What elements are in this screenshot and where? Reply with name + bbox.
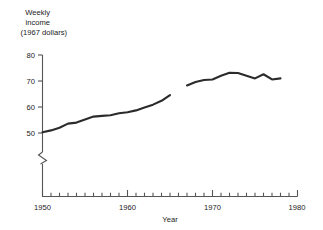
y-axis-title-line-2: income — [26, 18, 50, 27]
y-axis-break-icon — [39, 152, 47, 164]
y-axis-ticks — [38, 55, 43, 133]
x-tick-label-1950: 1950 — [34, 203, 51, 212]
x-axis-ticks — [43, 190, 298, 197]
x-tick-label-1970: 1970 — [204, 203, 221, 212]
chart-figure: Weekly income (1967 dollars) 80 70 60 50… — [0, 0, 323, 230]
x-axis-title: Year — [162, 215, 178, 224]
chart-canvas: Weekly income (1967 dollars) 80 70 60 50… — [0, 0, 323, 230]
data-line-segment-1 — [43, 95, 171, 132]
y-tick-label-80: 80 — [27, 51, 35, 60]
data-line-segment-2 — [187, 73, 281, 86]
y-axis-title-line-3: (1967 dollars) — [21, 28, 68, 37]
x-tick-label-1960: 1960 — [119, 203, 136, 212]
y-tick-label-70: 70 — [27, 77, 35, 86]
x-tick-label-1980: 1980 — [289, 203, 306, 212]
y-tick-label-60: 60 — [27, 103, 35, 112]
y-axis-title-line-1: Weekly — [25, 8, 50, 17]
y-tick-label-50: 50 — [27, 129, 35, 138]
